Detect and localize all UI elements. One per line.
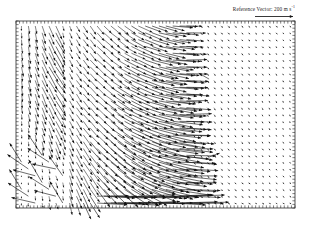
figure-container: Reference Vector: 200 m s-1 — [0, 0, 311, 232]
reference-vector-arrow — [255, 15, 293, 18]
vector-field-plot — [0, 0, 311, 232]
vector-arrows — [7, 25, 291, 219]
